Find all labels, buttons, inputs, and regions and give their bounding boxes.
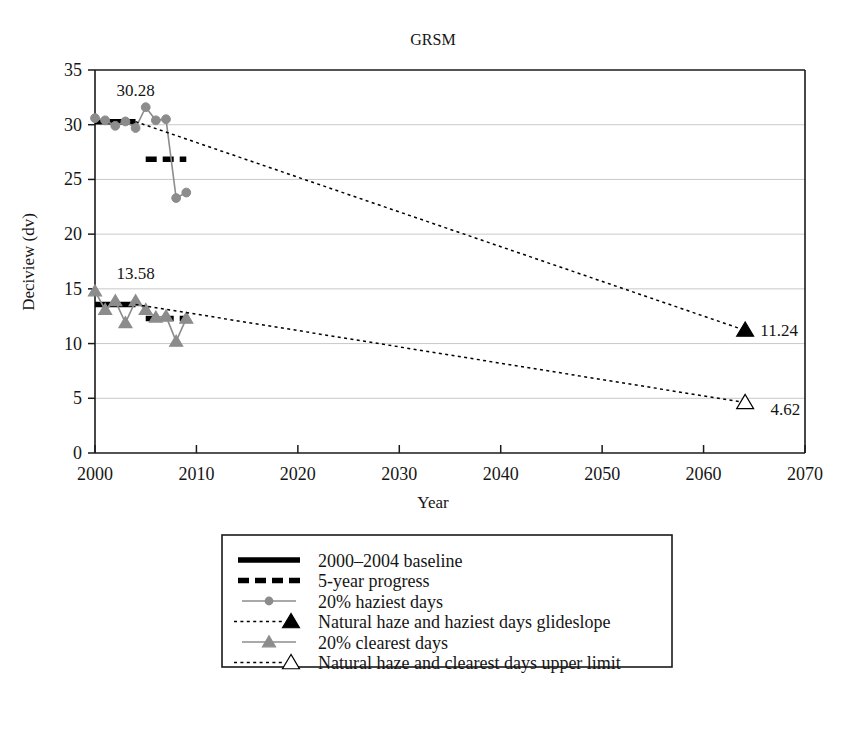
x-tick-label-2030: 2030 (381, 464, 417, 484)
legend-label-2: 20% haziest days (318, 592, 443, 612)
y-tick-label-15: 15 (64, 279, 82, 299)
legend-label-3: Natural haze and haziest days glideslope (318, 612, 610, 632)
x-tick-label-2010: 2010 (178, 464, 214, 484)
x-tick-label-2060: 2060 (686, 464, 722, 484)
haziest-days-point (151, 116, 160, 125)
annotation-13.58: 13.58 (116, 264, 154, 283)
chart-title: GRSM (410, 31, 455, 48)
haziest-days-point (182, 188, 191, 197)
haziest-days-point (111, 121, 120, 130)
y-tick-label-35: 35 (64, 60, 82, 80)
y-tick-label-10: 10 (64, 334, 82, 354)
legend-label-5: Natural haze and clearest days upper lim… (318, 653, 621, 673)
legend-label-0: 2000–2004 baseline (318, 551, 462, 571)
grsm-deciview-chart: GRSM 05101520253035 20002010202020302040… (0, 0, 866, 732)
haziest-days-point (131, 124, 140, 133)
y-tick-label-30: 30 (64, 115, 82, 135)
x-tick-label-2040: 2040 (483, 464, 519, 484)
haziest-days-point (121, 117, 130, 126)
haziest-days-point (101, 116, 110, 125)
y-tick-label-5: 5 (73, 388, 82, 408)
annotation-4.62: 4.62 (770, 400, 800, 419)
x-axis-title: Year (417, 493, 449, 512)
legend-label-1: 5-year progress (318, 571, 429, 591)
haziest-days-point (162, 115, 171, 124)
x-tick-label-2070: 2070 (787, 464, 823, 484)
y-tick-label-0: 0 (73, 443, 82, 463)
y-axis-title: Deciview (dv) (19, 213, 38, 311)
haziest-days-point (172, 194, 181, 203)
haziest-days-point (91, 114, 100, 123)
legend-label-4: 20% clearest days (318, 633, 448, 653)
chart-page: GRSM 05101520253035 20002010202020302040… (0, 0, 866, 732)
x-tick-label-2020: 2020 (280, 464, 316, 484)
x-tick-label-2050: 2050 (584, 464, 620, 484)
y-tick-label-25: 25 (64, 169, 82, 189)
annotation-11.24: 11.24 (760, 321, 798, 340)
legend-swatch-haziest-marker (265, 597, 274, 606)
y-tick-label-20: 20 (64, 224, 82, 244)
haziest-days-point (141, 103, 150, 112)
legend: 2000–2004 baseline5-year progress20% haz… (222, 535, 672, 673)
x-tick-label-2000: 2000 (77, 464, 113, 484)
annotation-30.28: 30.28 (116, 81, 154, 100)
